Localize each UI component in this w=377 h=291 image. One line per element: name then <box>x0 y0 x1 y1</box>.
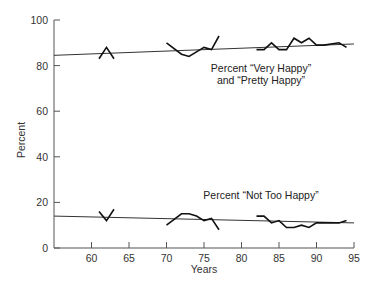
x-tick-label: 60 <box>86 252 98 264</box>
y-axis-ticks: 020406080100 <box>30 14 60 254</box>
y-axis-title: Percent <box>15 122 27 158</box>
x-axis-ticks: 6065707580859095 <box>86 242 360 264</box>
upper-series-label-line1: Percent “Very Happy” <box>211 62 312 74</box>
upper-series-label-line2: and “Pretty Happy” <box>217 74 306 86</box>
x-tick-label: 90 <box>311 252 323 264</box>
y-tick-label: 40 <box>36 151 48 163</box>
x-axis-title: Years <box>191 263 217 275</box>
happy-series-segment <box>257 38 347 49</box>
x-tick-label: 65 <box>123 252 135 264</box>
x-tick-label: 85 <box>273 252 285 264</box>
y-tick-label: 100 <box>30 14 48 26</box>
lower-series-label: Percent “Not Too Happy” <box>203 189 319 201</box>
y-tick-label: 0 <box>42 242 48 254</box>
x-tick-label: 70 <box>161 252 173 264</box>
not-happy-series-segment <box>99 209 114 220</box>
x-tick-label: 95 <box>348 252 360 264</box>
axes <box>54 20 354 248</box>
not-happy-series-segment <box>167 214 220 230</box>
lower-trend-line <box>54 216 354 223</box>
upper-trend-line <box>54 44 354 55</box>
y-tick-label: 20 <box>36 196 48 208</box>
y-tick-label: 80 <box>36 60 48 72</box>
y-tick-label: 60 <box>36 105 48 117</box>
x-tick-label: 80 <box>236 252 248 264</box>
happy-series-segment <box>167 36 220 57</box>
happiness-trend-chart: 020406080100 6065707580859095 Percent Ye… <box>0 0 377 291</box>
